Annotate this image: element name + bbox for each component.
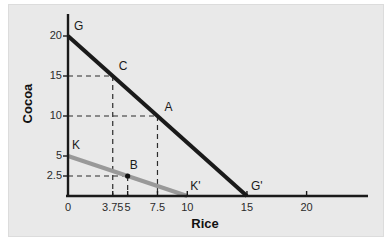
x-tick-label: 0 xyxy=(48,202,88,213)
y-axis-title: Cocoa xyxy=(20,69,35,139)
y-tick-label: 20 xyxy=(20,30,62,41)
point-marker-B xyxy=(125,173,130,178)
point-label-Gprime: G' xyxy=(251,180,263,192)
guide-lines-group xyxy=(68,76,157,196)
x-tick-label: 10 xyxy=(167,202,207,213)
point-label-G: G xyxy=(74,20,83,32)
point-label-Kprime: K' xyxy=(190,180,200,192)
point-label-A: A xyxy=(164,101,172,113)
point-label-B: B xyxy=(130,159,138,171)
y-tick-label: 5 xyxy=(20,150,62,161)
x-tick-label: 20 xyxy=(287,202,327,213)
x-tick-label: 15 xyxy=(227,202,267,213)
annotation-dots-group xyxy=(125,173,130,178)
point-label-K: K xyxy=(72,139,80,151)
x-axis-title: Rice xyxy=(150,216,260,231)
point-label-C: C xyxy=(119,60,128,72)
y-tick-label: 2.5 xyxy=(20,170,62,181)
